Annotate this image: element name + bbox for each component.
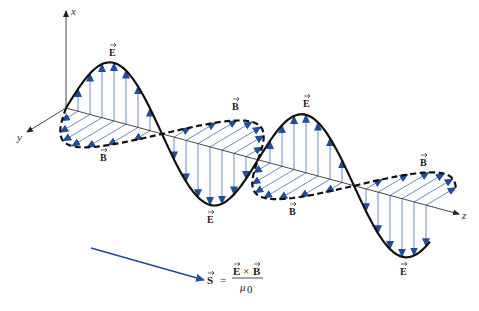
e-label-trough-2: E [400, 262, 407, 277]
b-label-text: B [289, 206, 296, 217]
formula-equals: = [220, 274, 226, 286]
e-label-trough-1: E [207, 210, 214, 225]
formula-mu: μ [239, 281, 246, 293]
poynting-formula: S = E × B μ 0 [207, 262, 263, 295]
z-axis-label: z [461, 209, 467, 221]
b-label-lobe-2: B [232, 97, 239, 112]
e-label-peak-1: E [109, 43, 116, 58]
e-label-peak-2: E [303, 94, 310, 109]
em-wave-diagram: x y z E B B E E B B E S = E × B [0, 0, 479, 311]
e-label-text: E [303, 98, 310, 109]
b-label-lobe-3: B [289, 202, 296, 217]
magnetic-field-vector [252, 166, 282, 184]
magnetic-field-vector [414, 179, 453, 202]
electric-field-wave [66, 62, 430, 257]
formula-s: S [207, 274, 213, 286]
magnetic-field-vector [300, 179, 330, 197]
magnetic-field-vector [87, 124, 126, 147]
e-label-text: E [207, 214, 214, 225]
y-axis-label: y [16, 131, 22, 143]
magnetic-field-vector [402, 174, 444, 199]
magnetic-field-vector [264, 173, 306, 198]
magnetic-field-vector [63, 118, 102, 141]
magnetic-field-vector [426, 188, 456, 206]
x-axis-label: x [70, 5, 76, 17]
formula-mu-subscript: 0 [247, 283, 253, 295]
magnetic-field-vector [60, 114, 90, 132]
b-label-lobe-1: B [100, 148, 107, 163]
b-label-lobe-4: B [420, 153, 427, 168]
magnetic-field-vector [198, 121, 237, 144]
magnetic-field-vector [210, 122, 252, 147]
poynting-vector-arrow [91, 248, 204, 280]
formula-e: E [233, 265, 240, 277]
e-label-text: E [400, 266, 407, 277]
b-label-text: B [100, 152, 107, 163]
magnetic-field-vector [255, 170, 294, 193]
b-label-text: B [232, 101, 239, 112]
formula-b: B [253, 265, 261, 277]
formula-cross: × [243, 265, 249, 277]
magnetic-field-vector [222, 127, 261, 150]
magnetic-field-vector [72, 121, 114, 146]
e-label-text: E [109, 47, 116, 58]
b-label-text: B [420, 157, 427, 168]
magnetic-field-vector [234, 136, 264, 154]
magnetic-field-wave [60, 108, 455, 199]
